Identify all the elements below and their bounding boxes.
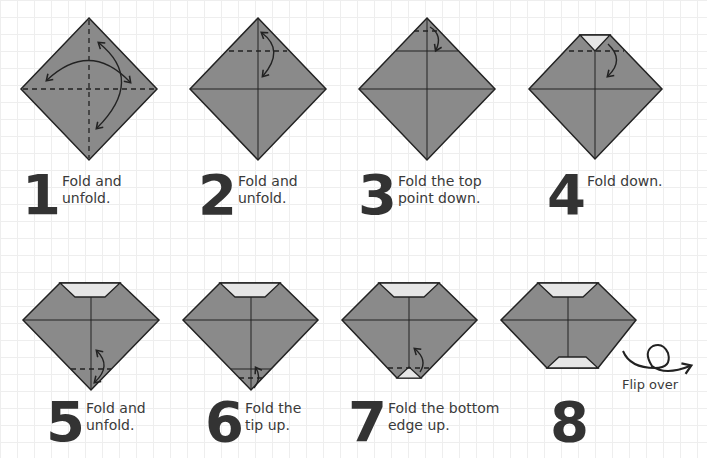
- step-3-diagram: [359, 18, 495, 160]
- step-5-diagram: [23, 283, 159, 390]
- step-1-diagram: [21, 18, 157, 160]
- step-4-label: 4 Fold down.: [547, 171, 707, 219]
- step-4-diagram: [529, 35, 662, 159]
- step-instruction: Fold the top point down.: [398, 173, 518, 207]
- step-7-label: 7 Fold the bottom edge up.: [348, 398, 508, 446]
- step-6-diagram: [183, 283, 318, 390]
- step-instruction: Fold the bottom edge up.: [388, 400, 508, 434]
- step-number: 2: [198, 171, 235, 219]
- step-number: 3: [358, 171, 395, 219]
- step-2-diagram: [190, 18, 326, 160]
- step-instruction: Fold the tip up.: [245, 400, 365, 434]
- flip-over-loop-arrow-icon: [623, 345, 690, 371]
- step-number: 1: [22, 171, 59, 219]
- step-instruction: Fold and unfold.: [62, 173, 182, 207]
- step-number: 5: [46, 398, 83, 446]
- step-number: 8: [550, 398, 587, 446]
- step-5-label: 5 Fold and unfold.: [46, 398, 206, 446]
- flip-over-label: Flip over: [622, 377, 678, 392]
- step-number: 7: [348, 398, 385, 446]
- step-instruction: Fold and unfold.: [86, 400, 206, 434]
- step-8-diagram: [501, 283, 636, 368]
- step-instruction: Fold down.: [587, 173, 707, 190]
- step-6-label: 6 Fold the tip up.: [205, 398, 365, 446]
- step-instruction: Fold and unfold.: [238, 173, 358, 207]
- step-8-label: 8: [550, 398, 587, 446]
- step-3-label: 3 Fold the top point down.: [358, 171, 518, 219]
- step-1-label: 1 Fold and unfold.: [22, 171, 182, 219]
- step-2-label: 2 Fold and unfold.: [198, 171, 358, 219]
- step-number: 6: [205, 398, 242, 446]
- step-7-diagram: [342, 283, 477, 378]
- step-number: 4: [547, 171, 584, 219]
